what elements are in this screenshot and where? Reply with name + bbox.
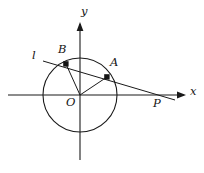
y-axis-arrow-icon — [77, 22, 84, 31]
label-line-l: l — [32, 50, 36, 62]
label-x-axis: x — [190, 86, 197, 98]
geometry-canvas — [0, 0, 204, 173]
x-axis-arrow-icon — [177, 92, 186, 99]
point-marker-A — [104, 74, 109, 79]
secant-line-l — [43, 61, 175, 100]
label-y-axis: y — [81, 6, 88, 18]
label-origin: O — [66, 97, 75, 109]
segment-OB — [66, 64, 80, 95]
label-point-B: B — [58, 44, 66, 56]
label-point-P: P — [153, 98, 161, 110]
label-point-A: A — [110, 57, 118, 69]
point-marker-B — [63, 61, 68, 66]
segment-OA — [80, 77, 107, 95]
geometry-figure: y x O B A P l — [0, 0, 204, 173]
